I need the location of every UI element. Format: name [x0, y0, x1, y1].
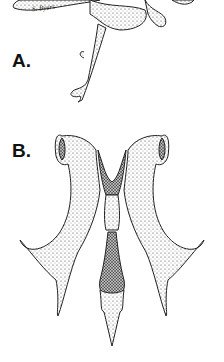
panel-label-a: A. [12, 50, 31, 72]
panel-a-drawing [13, 0, 194, 102]
figure-illustration [0, 0, 224, 362]
panel-label-b: B. [12, 140, 31, 162]
panel-b-drawing [20, 135, 204, 346]
